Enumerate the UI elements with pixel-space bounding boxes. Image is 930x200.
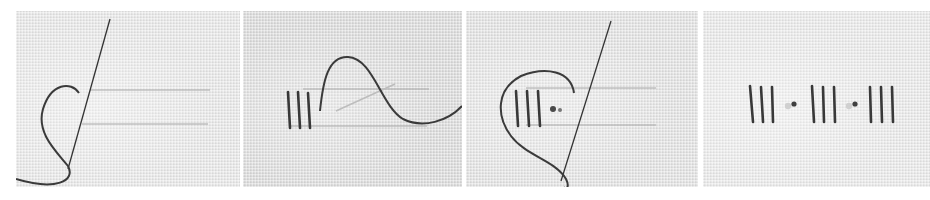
needle xyxy=(561,21,611,181)
french-knot xyxy=(852,101,857,106)
french-knot xyxy=(791,101,796,106)
step-4-photo xyxy=(703,11,930,187)
thread xyxy=(16,86,79,184)
step-4-illustration xyxy=(703,11,930,187)
thread xyxy=(320,57,462,123)
step-2-illustration xyxy=(243,11,462,187)
needle xyxy=(336,84,395,111)
straight-stitch-group xyxy=(288,92,310,128)
stitch-group-2 xyxy=(812,86,835,122)
step-2-photo xyxy=(243,11,462,187)
step-3-photo xyxy=(466,11,698,187)
straight-stitch-group xyxy=(516,91,540,126)
needle xyxy=(68,19,110,169)
stitch-group-1 xyxy=(750,86,773,122)
step-1-photo xyxy=(16,11,240,187)
tutorial-photo-strip xyxy=(0,0,930,200)
french-knot xyxy=(550,106,556,112)
step-1-illustration xyxy=(16,11,240,187)
stitch-group-3 xyxy=(870,87,893,122)
step-3-illustration xyxy=(466,11,698,187)
